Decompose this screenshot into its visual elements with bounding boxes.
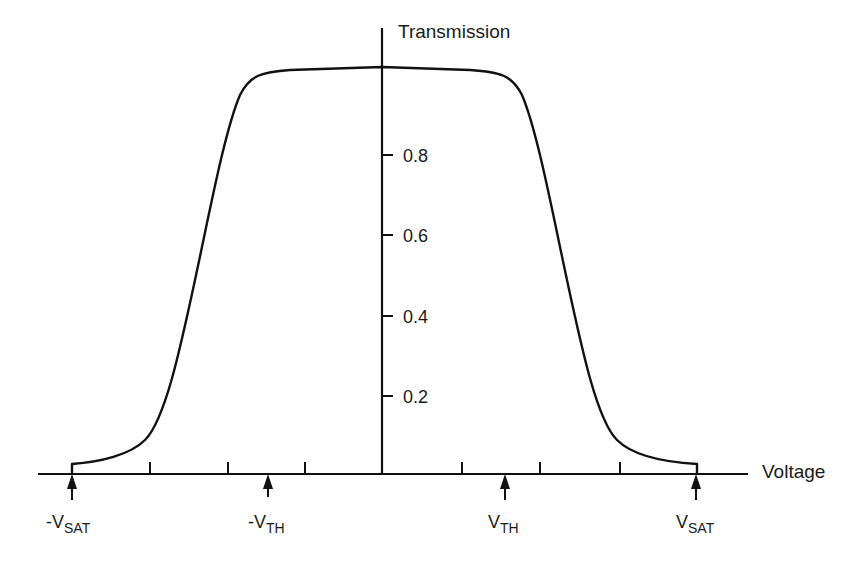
arrow-up-icon: [263, 474, 273, 497]
marker-vth: VTH: [488, 513, 519, 535]
x-axis-title: Voltage: [762, 462, 825, 481]
arrow-up-icon: [691, 474, 701, 500]
arrow-up-icon: [67, 474, 77, 500]
y-ticks: [382, 155, 393, 396]
marker-arrows: [67, 474, 701, 500]
y-tick-label: 0.8: [403, 147, 428, 165]
transmission-curve: [72, 67, 697, 474]
marker-neg-vth: -VTH: [248, 513, 285, 535]
arrow-up-icon: [500, 474, 510, 500]
y-tick-label: 0.2: [403, 388, 428, 406]
x-ticks: [150, 462, 620, 474]
y-tick-label: 0.6: [403, 227, 428, 245]
marker-neg-vsat: -VSAT: [46, 513, 90, 535]
transmission-voltage-chart: [0, 0, 859, 571]
y-tick-label: 0.4: [403, 308, 428, 326]
y-axis-title: Transmission: [398, 22, 510, 41]
marker-vsat: VSAT: [676, 513, 714, 535]
